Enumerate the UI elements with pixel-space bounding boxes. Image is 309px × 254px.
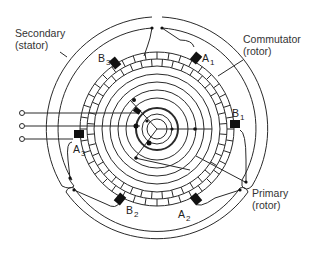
brush-A2 bbox=[190, 193, 203, 206]
brush-B2 bbox=[114, 193, 127, 206]
label-B2: B2 bbox=[126, 204, 138, 219]
primary-label-line1: Primary bbox=[252, 187, 288, 199]
label-A2: A2 bbox=[178, 208, 190, 223]
secondary-leader bbox=[60, 52, 67, 57]
primary-label: Primary (rotor) bbox=[252, 187, 288, 211]
commutator-label-line2: (rotor) bbox=[243, 45, 301, 57]
label-B1: B1 bbox=[232, 107, 244, 122]
primary-leader bbox=[196, 156, 247, 183]
commutator-label-line1: Commutator bbox=[243, 33, 301, 45]
label-B3: B3 bbox=[98, 52, 110, 67]
terminals bbox=[20, 111, 25, 142]
label-A1: A1 bbox=[202, 52, 214, 67]
commutator-label: Commutator (rotor) bbox=[243, 33, 301, 57]
secondary-label-line2: (stator) bbox=[15, 39, 65, 51]
terminal-3[interactable] bbox=[20, 137, 25, 142]
stator-segment-bottom bbox=[66, 188, 248, 239]
brush-A3 bbox=[74, 130, 84, 138]
brush-A1 bbox=[190, 52, 203, 65]
secondary-label-line1: Secondary bbox=[15, 27, 65, 39]
primary-label-line2: (rotor) bbox=[252, 199, 288, 211]
secondary-label: Secondary (stator) bbox=[15, 27, 65, 51]
terminal-1[interactable] bbox=[20, 111, 25, 116]
terminal-2[interactable] bbox=[20, 124, 25, 129]
label-A3: A3 bbox=[73, 143, 85, 158]
